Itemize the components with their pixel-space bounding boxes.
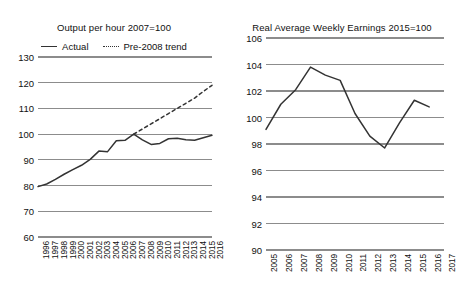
y-axis-tick-label: 100 <box>1 129 34 140</box>
x-axis-tick-label: 2011 <box>358 254 368 271</box>
x-axis-labels-real-average-weekly-earnings: 2005200620072008200920102011201220132014… <box>266 254 444 298</box>
x-axis-tick-label: 2009 <box>329 254 339 272</box>
y-axis-labels-output-per-hour: 60708090100110120130 <box>0 0 34 298</box>
y-axis-tick-label: 70 <box>1 206 34 217</box>
x-axis-tick-label: 2012 <box>373 254 383 272</box>
y-axis-tick-label: 110 <box>1 103 34 114</box>
y-axis-tick-label: 90 <box>1 154 34 165</box>
chart-panel-output-per-hour: Output per hour 2007=100 Actual Pre-2008… <box>0 0 228 298</box>
y-axis-tick-label: 60 <box>1 232 34 243</box>
legend-swatch-solid-icon <box>41 46 57 47</box>
x-axis-tick-label: 2006 <box>284 254 294 272</box>
plot-area-real-average-weekly-earnings <box>266 38 444 250</box>
y-axis-tick-label: 120 <box>1 77 34 88</box>
y-axis-tick-label: 102 <box>229 86 262 97</box>
y-axis-tick-label: 90 <box>229 245 262 256</box>
chart-legend-output-per-hour: Actual Pre-2008 trend <box>0 41 228 52</box>
x-axis-tick-label: 2007 <box>299 254 309 272</box>
x-axis-tick-label: 2014 <box>403 254 413 272</box>
series-line <box>134 85 212 134</box>
legend-swatch-dashed-icon <box>103 46 119 47</box>
chart-panel-real-average-weekly-earnings: Real Average Weekly Earnings 2015=100 90… <box>228 0 456 298</box>
chart-title-output-per-hour: Output per hour 2007=100 <box>0 22 228 33</box>
legend-label-pre-2008-trend: Pre-2008 trend <box>124 41 187 52</box>
x-axis-labels-output-per-hour: 1996199719981999200020012002200320042005… <box>38 241 212 297</box>
y-axis-labels-real-average-weekly-earnings: 9092949698100102104106 <box>228 0 262 298</box>
y-axis-tick-label: 80 <box>1 180 34 191</box>
x-axis-tick-label: 2010 <box>344 254 354 272</box>
y-axis-tick-label: 100 <box>229 112 262 123</box>
legend-item-pre-2008-trend: Pre-2008 trend <box>103 41 187 52</box>
x-axis-tick-label: 2016 <box>433 254 443 272</box>
x-axis-tick-label: 2015 <box>418 254 428 272</box>
x-axis-tick-label: 2005 <box>269 254 279 272</box>
x-axis-tick-label: 2016 <box>215 241 225 259</box>
x-axis-tick-label: 2017 <box>447 254 456 272</box>
y-axis-tick-label: 98 <box>229 139 262 150</box>
plot-area-output-per-hour <box>38 57 212 237</box>
y-axis-tick-label: 94 <box>229 192 262 203</box>
x-axis-tick-label: 2008 <box>314 254 324 272</box>
y-axis-tick-label: 104 <box>229 59 262 70</box>
x-axis-tick-label: 2013 <box>388 254 398 272</box>
y-axis-tick-label: 96 <box>229 165 262 176</box>
series-line <box>266 67 429 148</box>
chart-title-real-average-weekly-earnings: Real Average Weekly Earnings 2015=100 <box>228 22 456 33</box>
y-axis-tick-label: 130 <box>1 52 34 63</box>
y-axis-tick-label: 92 <box>229 218 262 229</box>
charts-container: Output per hour 2007=100 Actual Pre-2008… <box>0 0 456 298</box>
legend-item-actual: Actual <box>41 41 88 52</box>
legend-label-actual: Actual <box>62 41 88 52</box>
y-axis-tick-label: 106 <box>229 33 262 44</box>
